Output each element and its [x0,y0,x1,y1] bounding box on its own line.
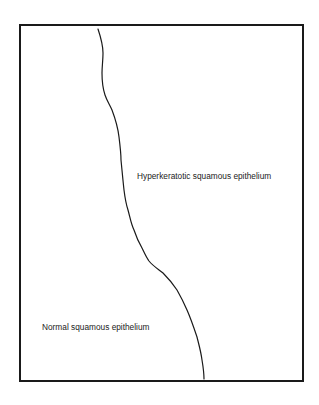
epithelium-boundary-line [0,0,319,405]
normal-region-label: Normal squamous epithelium [42,323,149,331]
hyperkeratotic-region-label: Hyperkeratotic squamous epithelium [137,172,271,180]
